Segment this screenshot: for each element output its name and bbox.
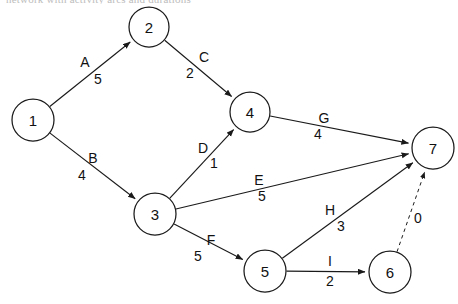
node-6[interactable]: 6 [369,251,411,293]
edges-layer [50,40,425,272]
edge-weight-dummy: 0 [414,210,422,226]
edge-weight-C: 2 [186,65,194,81]
edge-G [270,116,408,143]
node-3[interactable]: 3 [134,193,176,235]
node-label-5: 5 [261,263,269,280]
edge-weight-H: 3 [337,218,345,234]
edge-name-B: B [88,150,97,166]
edge-A [50,42,131,107]
node-label-3: 3 [151,206,159,223]
node-5[interactable]: 5 [244,250,286,292]
network-diagram-canvas: network with activity arcs and durations… [0,0,458,304]
edge-H [282,163,412,259]
node-2[interactable]: 2 [129,7,169,47]
edge-weight-I: 2 [326,273,334,289]
edge-weight-B: 4 [78,167,86,183]
node-label-7: 7 [429,140,437,157]
edge-name-E: E [254,172,263,188]
edge-name-I: I [328,253,332,269]
node-label-2: 2 [145,19,153,36]
edge-name-H: H [325,202,335,218]
edge-weight-G: 4 [314,126,322,142]
node-7[interactable]: 7 [412,127,454,169]
node-label-4: 4 [246,104,254,121]
edge-labels-layer: A5B4C2D1E5F5G4H3I20 [78,49,422,289]
node-label-6: 6 [386,264,394,281]
node-1[interactable]: 1 [12,99,54,141]
edge-name-D: D [198,140,208,156]
node-label-1: 1 [29,112,37,129]
node-4[interactable]: 4 [230,92,270,132]
edge-name-C: C [199,49,209,65]
nodes-layer: 1234567 [12,7,454,293]
edge-weight-D: 1 [210,155,218,171]
network-graph-svg: 1234567 A5B4C2D1E5F5G4H3I20 [0,0,458,304]
edge-I [286,271,365,272]
edge-name-G: G [319,110,330,126]
edge-weight-E: 5 [258,188,266,204]
edge-weight-F: 5 [194,248,202,264]
edge-name-A: A [80,54,90,70]
edge-weight-A: 5 [94,71,102,87]
edge-name-F: F [207,232,216,248]
